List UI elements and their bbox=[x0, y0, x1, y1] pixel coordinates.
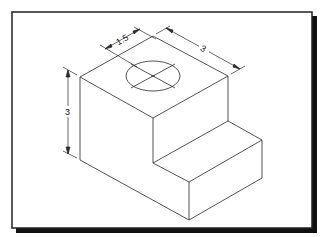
isometric-drawing-canvas: 1.5 3 3 bbox=[0, 0, 325, 237]
dimension-label-height: 3 bbox=[65, 107, 70, 117]
drawing-frame bbox=[12, 12, 312, 228]
